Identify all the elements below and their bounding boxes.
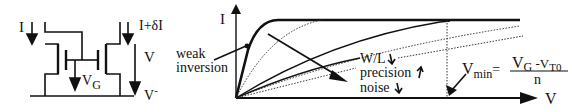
current-left-arrow-icon: [27, 34, 37, 44]
right-drain-wire: [106, 22, 120, 44]
wl-label: W/L: [360, 51, 386, 66]
curve-dotted-5: [236, 68, 356, 98]
supply-voltage-label: V-: [144, 84, 158, 103]
current-left-label: I: [19, 19, 24, 35]
current-right-label: I+δI: [139, 18, 163, 33]
x-axis-arrow-icon: [520, 92, 538, 104]
vg-arrow-icon: [70, 78, 80, 90]
x-axis-label: V: [545, 90, 557, 107]
y-axis-arrow-icon: [231, 4, 241, 14]
voltage-arrow-icon: [130, 82, 140, 94]
wl-down-arrow-icon: [388, 54, 395, 64]
gate-voltage-label: VG: [82, 73, 101, 92]
left-drain-wire: [45, 22, 82, 60]
curve-dotted-5-cont: [398, 36, 523, 58]
weak-inversion-label-2: inversion: [176, 60, 228, 75]
iv-graph: I V weak inversion W/L precision noise: [176, 4, 568, 107]
right-source-wire: [106, 74, 120, 96]
precision-label: precision: [360, 65, 411, 80]
wl-trend-arrow-icon: [329, 70, 348, 82]
noise-label: noise: [360, 80, 390, 95]
vmin-denominator: n: [534, 72, 541, 87]
precision-up-arrow-icon: [417, 67, 423, 78]
left-transistor-channel: [45, 44, 58, 96]
diagram-canvas: I I+δI V VG V- I V weak inversion: [0, 0, 572, 112]
noise-down-arrow-icon: [395, 83, 402, 93]
wl-trend-arrow-shaft: [268, 34, 338, 76]
vmin-label: Vmin=: [462, 60, 500, 81]
weak-inversion-dot: [245, 44, 250, 49]
weak-inversion-label-1: weak: [176, 46, 206, 61]
y-axis-label: I: [220, 11, 225, 27]
weak-inversion-pointer: [214, 46, 246, 60]
current-right-arrow-icon: [123, 34, 133, 44]
voltage-label: V: [144, 49, 155, 65]
